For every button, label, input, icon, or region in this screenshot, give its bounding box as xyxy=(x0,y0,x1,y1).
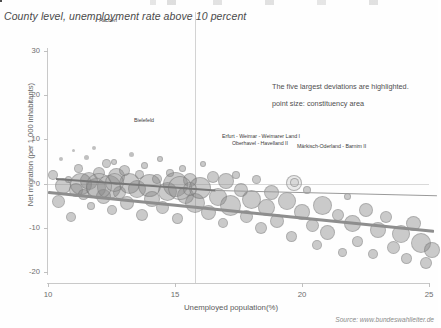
x-axis-tick xyxy=(175,283,176,287)
x-axis-tick-label: 10 xyxy=(36,290,60,299)
vertical-gridline xyxy=(195,12,196,283)
data-point xyxy=(252,175,261,184)
y-axis-tick xyxy=(44,272,48,273)
data-point xyxy=(136,209,148,221)
point-label-maerkisch: Märkisch-Oderland - Barnim II xyxy=(297,143,366,149)
y-axis-line xyxy=(47,48,48,275)
cropped-headline-remnant xyxy=(150,0,438,5)
data-point xyxy=(111,159,117,165)
y-axis-tick xyxy=(44,139,48,140)
data-point xyxy=(87,202,95,210)
x-axis-tick-label: 25 xyxy=(417,290,441,299)
data-point xyxy=(72,149,75,152)
data-point xyxy=(218,218,228,228)
x-axis-tick xyxy=(48,283,49,287)
annotation-line-1: The five largest deviations are highligh… xyxy=(272,82,409,91)
data-point xyxy=(387,241,400,254)
x-axis-tick xyxy=(302,283,303,287)
data-point xyxy=(92,146,96,150)
highlighted-data-point xyxy=(0,0,2,2)
data-point xyxy=(84,155,89,160)
data-point xyxy=(380,211,392,223)
data-point xyxy=(312,240,322,250)
y-axis-tick xyxy=(44,184,48,185)
data-point xyxy=(52,195,65,208)
data-point xyxy=(157,156,163,162)
point-label-erfurt: Erfurt - Weimar - Weimarer Land I xyxy=(222,133,300,139)
y-axis-tick-label: 0 xyxy=(14,179,40,188)
annotation-line-2: point size: constituency area xyxy=(272,99,364,108)
data-point xyxy=(338,248,347,257)
y-axis-label: Net migration (per 1,000 inhabitants) xyxy=(26,60,35,230)
x-axis-label-text: Unemployed population(%) xyxy=(184,303,278,312)
data-point xyxy=(74,164,83,173)
source-credit: Source: www.bundeswahlleiter.de xyxy=(335,316,434,323)
y-axis-tick xyxy=(44,51,48,52)
data-point xyxy=(141,162,148,169)
data-point xyxy=(306,219,319,232)
data-point xyxy=(286,231,297,242)
data-point xyxy=(107,205,117,215)
data-point xyxy=(424,242,440,258)
point-label-aachen: Aachen xyxy=(84,17,132,23)
y-axis-tick xyxy=(44,95,48,96)
y-axis-tick xyxy=(44,228,48,229)
x-axis-tick-label: 15 xyxy=(163,290,187,299)
data-point xyxy=(401,253,412,264)
data-point xyxy=(420,257,432,269)
point-label-bielefeld: Bielefeld xyxy=(114,117,174,123)
y-axis-tick-label: -10 xyxy=(14,223,40,232)
data-point xyxy=(278,192,296,210)
data-point xyxy=(313,196,332,215)
y-axis-tick-label: 10 xyxy=(14,134,40,143)
data-point xyxy=(220,195,241,216)
x-axis-line xyxy=(47,283,429,284)
x-axis-tick xyxy=(429,283,430,287)
data-point xyxy=(320,225,335,240)
data-point xyxy=(200,161,206,167)
y-axis-tick-label: -20 xyxy=(14,267,40,276)
data-point xyxy=(368,249,378,259)
y-axis-tick-label: 30 xyxy=(14,46,40,55)
y-axis-tick-label: 20 xyxy=(14,90,40,99)
data-point xyxy=(172,213,183,224)
data-point xyxy=(66,212,76,222)
data-point xyxy=(352,236,363,247)
data-point xyxy=(255,222,267,234)
x-axis-label: Unemployed population(%) xyxy=(0,303,438,312)
x-axis-tick-label: 20 xyxy=(290,290,314,299)
point-label-oberhavel: Oberhavel - Havelland II xyxy=(232,140,288,146)
data-point xyxy=(232,171,240,179)
data-point xyxy=(129,152,134,157)
data-point xyxy=(332,209,344,221)
data-point xyxy=(102,159,111,168)
data-point xyxy=(179,165,186,172)
data-point xyxy=(59,157,63,161)
data-point xyxy=(359,203,373,217)
data-point xyxy=(344,193,351,200)
